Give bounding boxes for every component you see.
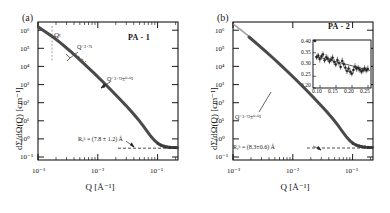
panel-a-y-major-ticks: [38, 30, 178, 157]
panel-b: (b) PA - 2 10⁶ 10⁵ 10⁴ 10³ 10² 10¹ 10⁰ 1…: [195, 0, 390, 213]
panel-b-plot-canvas: [195, 0, 390, 213]
panel-a-data-series: [39, 27, 178, 147]
panel-a: (a) PA - 1 10⁶ 10⁵ 10⁴ 10³ 10² 10¹ 10⁰ 1…: [0, 0, 195, 213]
sans-figure: (a) PA - 1 10⁶ 10⁵ 10⁴ 10³ 10² 10¹ 10⁰ 1…: [0, 0, 390, 213]
panel-a-rg-leader: [126, 141, 134, 147]
panel-a-x-minor-ticks: [56, 22, 176, 160]
panel-a-x-major-ticks: [38, 22, 158, 160]
panel-b-main-power-law-leader: [259, 92, 271, 112]
panel-a-plot-canvas: [0, 0, 195, 213]
